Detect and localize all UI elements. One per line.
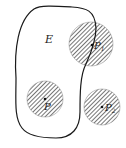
point-p2-dot [101,106,104,109]
region-label: E [44,33,53,46]
neighborhood-disk-p1 [69,22,113,66]
set-neighborhood-diagram: E P1 P P2 [0,0,126,148]
point-p-dot [44,98,47,101]
point-p1-dot [91,44,94,47]
point-p-label: P [43,101,51,112]
